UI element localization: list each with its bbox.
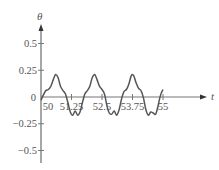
y-ticks: 0.50.250−0.25−0.5 bbox=[13, 38, 44, 156]
y-axis-label: θ bbox=[37, 10, 43, 22]
y-tick-label: 0.25 bbox=[19, 65, 37, 76]
x-tick-label: 53.75 bbox=[121, 101, 145, 112]
x-tick-label: 50 bbox=[43, 101, 54, 112]
y-tick-label: −0.5 bbox=[18, 145, 37, 156]
x-axis-label: t bbox=[211, 90, 215, 102]
y-tick-label: 0 bbox=[31, 92, 36, 103]
chart: θ 0.50.250−0.25−0.5 t 5051.2552.553.7555 bbox=[0, 0, 219, 170]
y-tick-label: −0.25 bbox=[13, 118, 37, 129]
y-axis: θ 0.50.250−0.25−0.5 bbox=[13, 10, 44, 163]
y-tick-label: 0.5 bbox=[24, 38, 37, 49]
x-axis-arrow-icon bbox=[200, 95, 207, 100]
y-axis-arrow-icon bbox=[39, 24, 44, 31]
